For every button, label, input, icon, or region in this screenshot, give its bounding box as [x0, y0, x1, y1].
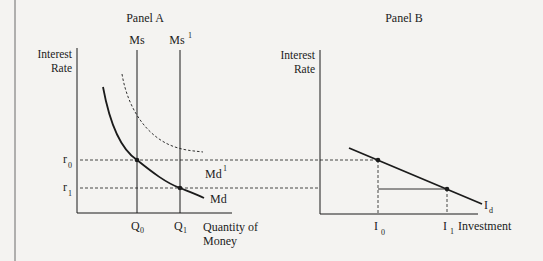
- point-i1-r1: [445, 187, 450, 192]
- md-curve: [103, 87, 204, 198]
- i1-label: I: [443, 219, 447, 233]
- ms1-superscript: 1: [188, 31, 192, 40]
- r0-subscript: 0: [68, 161, 72, 170]
- panel-b: Panel B Interest Rate I d I 0 I 1 Invest…: [281, 11, 512, 237]
- i0-label: I: [374, 219, 378, 233]
- panel-b-y-label-1: Interest: [281, 49, 316, 61]
- md1-curve: [122, 74, 203, 152]
- panel-a-x-label-2: Money: [203, 234, 237, 248]
- panel-a-title: Panel A: [126, 11, 164, 25]
- panel-a-x-label-1: Quantity of: [203, 220, 258, 234]
- md1-label: Md: [205, 167, 222, 181]
- q0-label: Q: [131, 219, 140, 233]
- money-market-investment-diagram: Panel A Interest Rate Ms Ms 1 r 0 r 1 Md…: [0, 0, 543, 261]
- panel-a-y-label-1: Interest: [38, 48, 73, 60]
- id-label: I: [484, 198, 488, 212]
- panel-b-x-label: Investment: [458, 219, 512, 233]
- r0-label: r: [63, 152, 67, 166]
- diagram-canvas: Panel A Interest Rate Ms Ms 1 r 0 r 1 Md…: [0, 0, 543, 261]
- i1-subscript: 1: [450, 227, 454, 236]
- id-subscript: d: [489, 206, 493, 215]
- q0-subscript: 0: [140, 226, 144, 235]
- md-label: Md: [210, 192, 227, 206]
- panel-b-y-label-2: Rate: [294, 63, 315, 75]
- panel-b-title: Panel B: [385, 11, 423, 25]
- q1-label: Q: [174, 219, 183, 233]
- panel-a: Panel A Interest Rate Ms Ms 1 r 0 r 1 Md…: [38, 11, 378, 248]
- md1-superscript: 1: [223, 164, 227, 173]
- equilibrium-point-q1-r1: [178, 186, 183, 191]
- point-i0-r0: [376, 158, 381, 163]
- i0-subscript: 0: [381, 228, 385, 237]
- r1-label: r: [63, 180, 67, 194]
- q1-subscript: 1: [183, 226, 187, 235]
- ms1-label: Ms: [169, 33, 185, 47]
- id-line: [349, 148, 482, 204]
- r1-subscript: 1: [68, 189, 72, 198]
- ms-label: Ms: [129, 33, 145, 47]
- equilibrium-point-q0-r0: [135, 158, 140, 163]
- panel-a-y-label-2: Rate: [51, 62, 72, 74]
